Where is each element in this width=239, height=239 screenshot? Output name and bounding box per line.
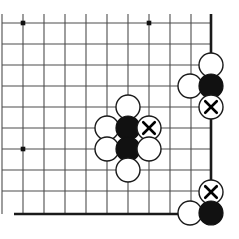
white-stone-center-bottom <box>116 158 140 182</box>
white-stone-marked-corner <box>199 180 223 204</box>
white-stone-body <box>178 201 202 225</box>
white-stone-body <box>137 137 161 161</box>
white-stone-marked-edge <box>199 95 223 119</box>
star-point-left <box>21 147 26 152</box>
white-stone-body <box>178 74 202 98</box>
go-board-canvas <box>0 0 239 239</box>
white-stone-corner-inner <box>178 201 202 225</box>
white-stone-body <box>116 158 140 182</box>
go-board-figure <box>0 0 239 239</box>
star-point-top-left <box>21 21 26 26</box>
white-stone-edge-inner <box>178 74 202 98</box>
stones-group <box>95 53 223 225</box>
star-point-top-right <box>147 21 152 26</box>
white-stone-center-right-lower <box>137 137 161 161</box>
black-stone-body <box>199 201 223 225</box>
black-stone-corner <box>199 201 223 225</box>
